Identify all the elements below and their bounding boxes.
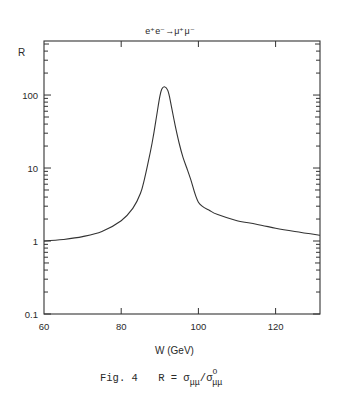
caption-formula: R = σ <box>158 372 190 384</box>
chart-title: e⁺e⁻→μ⁺μ⁻ <box>145 26 194 36</box>
figure-caption: Fig. 4 R = σμμ/σOμμ <box>100 367 222 388</box>
svg-text:1: 1 <box>33 236 38 247</box>
svg-text:120: 120 <box>268 321 284 332</box>
caption-prefix: Fig. 4 <box>100 372 138 384</box>
resonance-curve <box>44 87 320 241</box>
svg-text:10: 10 <box>27 163 38 174</box>
svg-text:100: 100 <box>190 321 206 332</box>
caption-slash: /σ <box>200 372 213 384</box>
figure: e⁺e⁻→μ⁺μ⁻ R 60801001200.1110100 W (GeV) … <box>0 0 340 403</box>
plot-frame <box>44 41 320 314</box>
caption-sup: O <box>212 367 217 376</box>
axis-ticks <box>44 41 320 314</box>
caption-sub: μμ <box>190 378 200 388</box>
svg-text:Fig. 4 R = σμμ/σOμμ: Fig. 4 R = σμμ/σOμμ <box>100 367 222 388</box>
x-axis-label: W (GeV) <box>155 345 194 356</box>
axis-tick-labels: 60801001200.1110100 <box>22 90 283 332</box>
svg-text:0.1: 0.1 <box>25 309 38 320</box>
y-axis-label: R <box>18 47 25 58</box>
svg-text:100: 100 <box>22 90 38 101</box>
svg-text:80: 80 <box>116 321 127 332</box>
caption-sub2: μμ <box>212 378 222 388</box>
svg-text:60: 60 <box>39 321 50 332</box>
